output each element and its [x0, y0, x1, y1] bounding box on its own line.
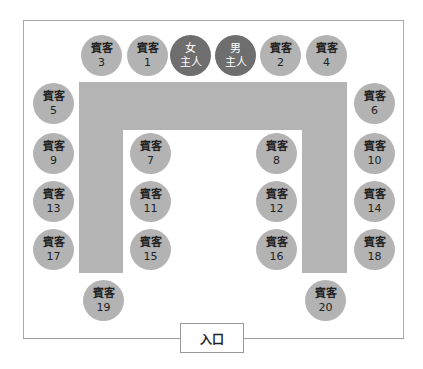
table-left-leg: [79, 130, 123, 273]
seat-role-label: 賓客: [315, 287, 337, 301]
seat-number-label: 20: [319, 301, 333, 315]
seat-guest-8: 賓客8: [256, 133, 297, 174]
seat-role-label: 賓客: [93, 287, 115, 301]
seat-role-label: 賓客: [43, 90, 65, 104]
seat-guest-19: 賓客19: [83, 280, 124, 321]
seat-guest-3: 賓客3: [81, 35, 122, 76]
seat-guest-17: 賓客17: [33, 229, 74, 270]
seat-guest-16: 賓客16: [256, 229, 297, 270]
seat-guest-13: 賓客13: [33, 181, 74, 222]
seat-guest-6: 賓客6: [354, 83, 395, 124]
seat-number-label: 16: [270, 250, 284, 264]
seat-guest-1: 賓客1: [127, 35, 168, 76]
seat-guest-18: 賓客18: [354, 229, 395, 270]
seat-guest-2: 賓客2: [260, 35, 301, 76]
seat-number-label: 15: [144, 250, 158, 264]
seat-number-label: 10: [368, 154, 382, 168]
seat-role-label: 賓客: [266, 140, 288, 154]
seat-role-label: 賓客: [137, 42, 159, 56]
seat-role-label: 賓客: [91, 42, 113, 56]
seat-guest-9: 賓客9: [33, 133, 74, 174]
entrance-label: 入口: [180, 323, 244, 353]
seat-guest-12: 賓客12: [256, 181, 297, 222]
seat-role-label: 賓客: [266, 188, 288, 202]
seat-number-label: 17: [47, 250, 61, 264]
seat-number-label: 5: [50, 104, 57, 118]
seat-number-label: 6: [371, 104, 378, 118]
seat-role-label: 賓客: [316, 42, 338, 56]
seat-guest-7: 賓客7: [130, 133, 171, 174]
room-wall-bottom-left: [23, 338, 180, 339]
seat-role-label: 賓客: [140, 140, 162, 154]
seat-role-label: 賓客: [270, 42, 292, 56]
room-wall-bottom-right: [244, 338, 404, 339]
seat-role-label: 賓客: [364, 140, 386, 154]
seat-role-label: 賓客: [43, 140, 65, 154]
seat-number-label: 19: [97, 301, 111, 315]
seat-number-label: 13: [47, 202, 61, 216]
seat-guest-14: 賓客14: [354, 181, 395, 222]
seat-number-label: 8: [273, 154, 280, 168]
seat-hostess: 女主人: [170, 35, 211, 76]
seat-number-label: 2: [277, 56, 284, 70]
seat-number-label: 3: [98, 56, 105, 70]
seat-role-label: 賓客: [266, 236, 288, 250]
seat-number-label: 4: [323, 56, 330, 70]
table-right-leg: [302, 130, 347, 273]
seat-number-label: 9: [50, 154, 57, 168]
seat-number-label: 7: [147, 154, 154, 168]
seat-number-label: 主人: [225, 56, 247, 70]
seat-guest-4: 賓客4: [306, 35, 347, 76]
seat-role-label: 女: [185, 42, 196, 56]
seat-role-label: 男: [230, 42, 241, 56]
seat-role-label: 賓客: [364, 236, 386, 250]
seat-role-label: 賓客: [43, 236, 65, 250]
seat-role-label: 賓客: [140, 236, 162, 250]
seat-guest-20: 賓客20: [305, 280, 346, 321]
seat-number-label: 1: [144, 56, 151, 70]
seat-number-label: 14: [368, 202, 382, 216]
seat-number-label: 18: [368, 250, 382, 264]
seat-number-label: 主人: [180, 56, 202, 70]
seat-role-label: 賓客: [364, 90, 386, 104]
seat-host: 男主人: [215, 35, 256, 76]
table-top-section: [79, 82, 347, 130]
seat-role-label: 賓客: [43, 188, 65, 202]
seat-guest-10: 賓客10: [354, 133, 395, 174]
seat-role-label: 賓客: [140, 188, 162, 202]
seat-guest-11: 賓客11: [130, 181, 171, 222]
seat-role-label: 賓客: [364, 188, 386, 202]
seat-guest-15: 賓客15: [130, 229, 171, 270]
seat-number-label: 11: [144, 202, 158, 216]
seat-number-label: 12: [270, 202, 284, 216]
seat-guest-5: 賓客5: [33, 83, 74, 124]
